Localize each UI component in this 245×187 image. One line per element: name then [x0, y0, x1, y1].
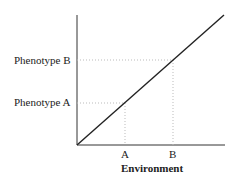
x-tick-b: B — [169, 148, 176, 160]
y-tick-phenotype-a: Phenotype A — [14, 96, 71, 108]
x-tick-a: A — [121, 148, 129, 160]
y-tick-phenotype-b: Phenotype B — [14, 54, 71, 66]
x-axis-label: Environment — [121, 162, 183, 174]
reaction-norm-line — [77, 15, 224, 145]
